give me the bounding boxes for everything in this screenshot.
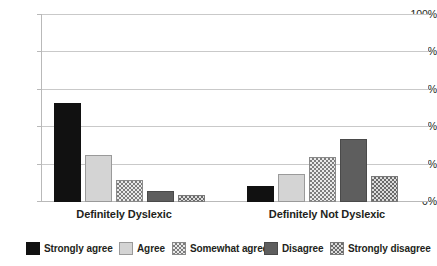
bar-group1-somewhat-agree [116,180,143,202]
legend-label: Disagree [282,243,323,254]
bar-group2-agree [278,174,305,202]
legend-swatch-icon [172,242,186,255]
gridline-40 [42,126,429,127]
legend-item-disagree: Disagree [264,240,323,256]
x-axis-label-group2: Definitely Not Dyslexic [237,208,417,220]
legend-swatch-icon [264,242,278,255]
bar-group1-strongly-disagree [178,195,205,202]
legend-swatch-icon [26,242,40,255]
bar-group1-strongly-agree [54,103,81,202]
bar-group2-strongly-disagree [371,176,398,202]
gridline-100 [42,14,429,15]
legend-item-somewhat-agree: Somewhat agree [172,240,268,256]
legend-label: Agree [137,243,165,254]
legend-swatch-icon [119,242,133,255]
bar-group1-disagree [147,191,174,202]
gridline-80 [42,51,429,52]
legend-item-strongly-agree: Strongly agree [26,240,113,256]
bar-chart: 100% 80% 60% 40% 20% 0% Definitely [0,0,437,266]
legend-label: Strongly disagree [348,243,431,254]
legend-swatch-icon [330,242,344,255]
bar-group2-somewhat-agree [309,157,336,202]
bar-group2-disagree [340,139,367,202]
legend-item-strongly-disagree: Strongly disagree [330,240,431,256]
legend-item-agree: Agree [119,240,165,256]
plot-area [41,14,428,202]
x-axis-label-group1: Definitely Dyslexic [44,208,204,220]
bar-group2-strongly-agree [247,186,274,202]
bar-group1-agree [85,155,112,202]
chart-legend: Strongly agree Agree Somewhat agree Disa… [0,240,437,260]
legend-label: Strongly agree [44,243,113,254]
legend-label: Somewhat agree [190,243,268,254]
gridline-60 [42,89,429,90]
